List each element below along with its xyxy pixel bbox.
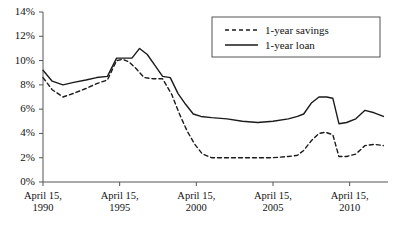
y-tick-label: 10% <box>0 55 35 66</box>
legend-label-loan: 1-year loan <box>265 40 315 51</box>
legend-label-savings: 1-year savings <box>265 25 329 36</box>
x-tick-label: April 15,2005 <box>233 190 313 214</box>
series-line-1-year-loan <box>43 48 383 123</box>
y-tick-label: 14% <box>0 6 35 17</box>
y-tick-label: 8% <box>0 79 35 90</box>
y-tick-label: 4% <box>0 127 35 138</box>
data-series-group <box>43 48 383 157</box>
y-tick-label: 12% <box>0 30 35 41</box>
x-tick-label: April 15,2000 <box>156 190 236 214</box>
series-line-1-year-savings <box>43 59 383 157</box>
y-axis-ticks <box>39 12 43 182</box>
legend-box <box>212 17 380 57</box>
x-axis-ticks <box>43 182 350 186</box>
y-tick-label: 2% <box>0 152 35 163</box>
x-tick-label: April 15,1990 <box>3 190 83 214</box>
chart-container: 0%2%4%6%8%10%12%14% April 15,1990April 1… <box>0 0 393 225</box>
x-tick-label: April 15,1995 <box>80 190 160 214</box>
y-tick-label: 6% <box>0 103 35 114</box>
y-tick-label: 0% <box>0 176 35 187</box>
x-tick-label: April 15,2010 <box>310 190 390 214</box>
